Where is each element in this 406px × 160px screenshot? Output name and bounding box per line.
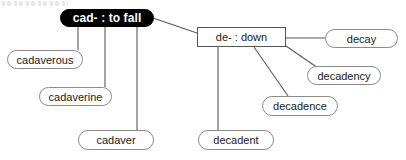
node-label: decadent xyxy=(213,134,258,146)
edge-branch-de-to-decadence xyxy=(254,47,288,96)
node-cadaver[interactable]: cadaver xyxy=(78,130,154,150)
node-label: cadaverine xyxy=(49,91,103,103)
node-label: decadency xyxy=(317,70,370,82)
edge-branch-de-to-decadency xyxy=(286,46,318,68)
node-root-cad[interactable]: cad- : to fall xyxy=(60,9,154,27)
node-branch-de[interactable]: de- : down xyxy=(197,27,286,47)
node-branch-label: de- : down xyxy=(216,31,267,43)
node-cadaverous[interactable]: cadaverous xyxy=(7,50,83,69)
node-decadent[interactable]: decadent xyxy=(198,130,274,150)
node-root-label: cad- : to fall xyxy=(73,11,142,25)
node-cadaverine[interactable]: cadaverine xyxy=(39,87,112,106)
node-label: cadaverous xyxy=(17,54,74,66)
node-decay[interactable]: decay xyxy=(325,29,398,48)
node-decadency[interactable]: decadency xyxy=(307,66,381,85)
node-label: cadaver xyxy=(96,134,135,146)
edge-root-to-branch-de xyxy=(153,18,197,33)
node-decadence[interactable]: decadence xyxy=(262,96,338,116)
node-label: decay xyxy=(347,33,376,45)
diagram-canvas: cad- : to fall de- : down cadaverous cad… xyxy=(0,0,406,160)
node-label: decadence xyxy=(273,100,327,112)
cropped-text-artifact xyxy=(2,1,68,6)
